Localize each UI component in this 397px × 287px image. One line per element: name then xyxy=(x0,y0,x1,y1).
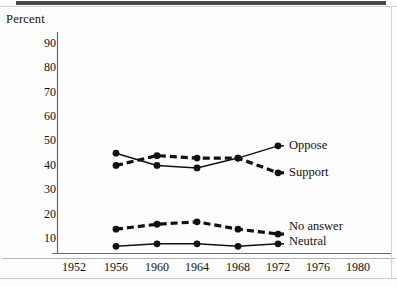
chart-series xyxy=(113,240,284,249)
data-point-marker xyxy=(194,165,201,172)
data-point-marker xyxy=(113,150,120,157)
data-point-marker xyxy=(113,226,120,233)
data-point-marker xyxy=(154,221,161,228)
figure-page: Percent 90 80 70 60 50 40 30 20 10 1952 … xyxy=(0,0,397,287)
data-point-marker xyxy=(154,240,161,247)
data-point-marker xyxy=(194,240,201,247)
data-point-marker xyxy=(235,243,242,250)
data-point-marker xyxy=(235,226,242,233)
data-point-marker xyxy=(194,218,201,225)
chart-series xyxy=(113,218,284,237)
data-point-marker xyxy=(194,155,201,162)
data-point-marker xyxy=(154,152,161,159)
chart-series xyxy=(113,152,284,176)
data-point-marker xyxy=(113,162,120,169)
chart-plot-area xyxy=(0,0,397,287)
data-point-marker xyxy=(154,162,161,169)
data-point-marker xyxy=(235,155,242,162)
data-point-marker xyxy=(113,243,120,250)
